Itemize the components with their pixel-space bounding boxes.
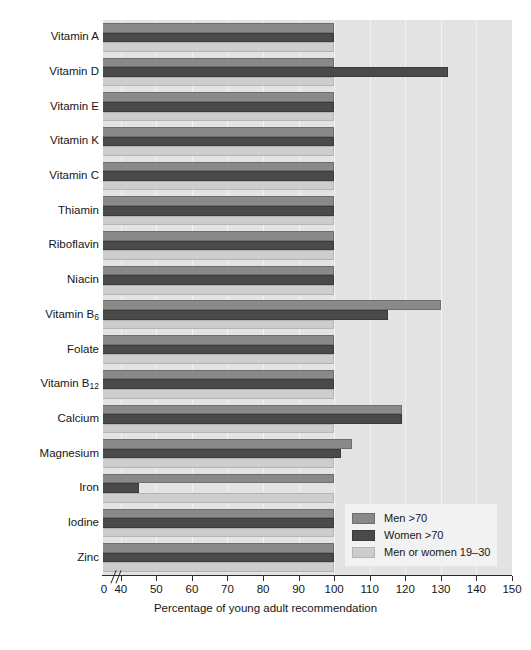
bar-young <box>103 250 334 260</box>
x-axis-tick <box>441 576 442 581</box>
legend-label-men: Men >70 <box>384 512 427 524</box>
bar-women <box>103 241 334 251</box>
bar-women <box>103 553 334 563</box>
x-axis-tick <box>263 576 264 581</box>
y-axis-label: Folate <box>67 343 99 356</box>
bar-men <box>103 58 334 68</box>
x-axis-tick <box>370 576 371 581</box>
y-axis-label: Riboflavin <box>49 238 100 251</box>
y-axis-label: Vitamin D <box>49 65 99 78</box>
x-axis-line <box>103 575 512 576</box>
bar-young <box>103 285 334 295</box>
bar-men <box>103 439 352 449</box>
bar-women <box>103 449 341 459</box>
bar-men <box>103 196 334 206</box>
x-axis-tick-label: 60 <box>186 583 199 595</box>
bar-men <box>103 405 402 415</box>
legend-label-women: Women >70 <box>384 529 443 541</box>
bar-young <box>103 181 334 191</box>
y-axis-label: Calcium <box>57 412 99 425</box>
legend-item-young[interactable]: Men or women 19–30 <box>352 544 489 560</box>
bar-women <box>103 171 334 181</box>
x-axis-title: Percentage of young adult recommendation <box>0 602 531 614</box>
x-axis-tick-label: 80 <box>257 583 270 595</box>
bar-men <box>103 474 334 484</box>
y-axis-label: Vitamin K <box>50 134 99 147</box>
x-axis-tick-label: 40 <box>114 583 127 595</box>
bar-women <box>103 206 334 216</box>
bar-chart: Vitamin AVitamin DVitamin EVitamin KVita… <box>0 0 531 650</box>
bar-young <box>103 42 334 52</box>
x-axis-tick-label: 130 <box>431 583 450 595</box>
legend: Men >70 Women >70 Men or women 19–30 <box>345 504 497 566</box>
bar-women <box>103 483 139 493</box>
y-axis-label: Vitamin B6 <box>45 308 99 322</box>
bar-women <box>103 379 334 389</box>
bar-women <box>103 102 334 112</box>
x-axis-tick <box>334 576 335 581</box>
x-axis-tick <box>299 576 300 581</box>
bar-young <box>103 493 334 503</box>
bar-women <box>103 67 448 77</box>
bar-men <box>103 162 334 172</box>
bar-men <box>103 23 334 33</box>
bar-young <box>103 528 334 538</box>
bar-young <box>103 562 334 572</box>
bar-women <box>103 275 334 285</box>
x-axis-tick-label: 120 <box>396 583 415 595</box>
x-axis-tick <box>512 576 513 581</box>
plot-area <box>103 20 512 575</box>
legend-label-young: Men or women 19–30 <box>384 546 490 558</box>
y-axis-label: Iodine <box>68 516 99 529</box>
bar-men <box>103 266 334 276</box>
y-axis-label: Vitamin E <box>50 100 99 113</box>
bar-men <box>103 300 441 310</box>
x-axis-tick <box>121 576 122 581</box>
bar-young <box>103 354 334 364</box>
bar-men <box>103 335 334 345</box>
x-axis-tick-label: 150 <box>502 583 521 595</box>
bar-women <box>103 310 388 320</box>
y-axis-label: Niacin <box>67 273 99 286</box>
bar-young <box>103 320 334 330</box>
x-axis-tick <box>156 576 157 581</box>
legend-swatch-men-icon <box>352 513 375 524</box>
bar-men <box>103 231 334 241</box>
legend-item-women[interactable]: Women >70 <box>352 527 489 543</box>
bar-men <box>103 509 334 519</box>
x-axis-tick <box>405 576 406 581</box>
x-axis-tick <box>476 576 477 581</box>
x-axis-tick-label: 70 <box>221 583 234 595</box>
y-axis-label: Vitamin B12 <box>41 377 99 391</box>
x-axis-tick-label: 140 <box>467 583 486 595</box>
bar-young <box>103 112 334 122</box>
y-axis-label: Iron <box>79 481 99 494</box>
x-axis-tick-label: 50 <box>150 583 163 595</box>
bar-women <box>103 414 402 424</box>
y-axis-label: Magnesium <box>40 447 99 460</box>
x-axis-tick-label: 110 <box>361 583 379 595</box>
bar-rows <box>103 20 512 575</box>
x-axis-tick <box>192 576 193 581</box>
bar-women <box>103 33 334 43</box>
bar-women <box>103 137 334 147</box>
legend-item-men[interactable]: Men >70 <box>352 510 489 526</box>
x-axis-tick <box>227 576 228 581</box>
bar-women <box>103 518 334 528</box>
bar-men <box>103 92 334 102</box>
bar-young <box>103 458 334 468</box>
bar-young <box>103 216 334 226</box>
bar-young <box>103 77 334 87</box>
y-axis-labels: Vitamin AVitamin DVitamin EVitamin KVita… <box>0 20 99 575</box>
y-axis-label: Vitamin A <box>51 30 99 43</box>
legend-swatch-young-icon <box>352 547 375 558</box>
x-axis-tick-label: 0 <box>101 583 107 595</box>
bar-women <box>103 345 334 355</box>
y-axis-label: Thiamin <box>58 204 99 217</box>
x-axis-tick-label: 100 <box>325 583 344 595</box>
y-axis-label: Zinc <box>77 551 99 564</box>
bar-men <box>103 543 334 553</box>
bar-young <box>103 389 334 399</box>
x-axis-tick-label: 90 <box>292 583 305 595</box>
bar-men <box>103 127 334 137</box>
